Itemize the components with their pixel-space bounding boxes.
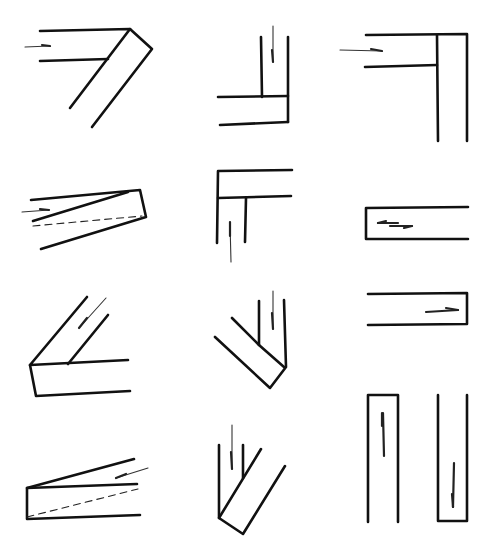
- arrow-right-icon: [340, 49, 382, 51]
- figure-3-horizontal-into-vertical: [340, 34, 467, 141]
- figure-7-diagonal-into-horizontal: [30, 297, 130, 396]
- figure-5-inverted-l-corner: [217, 170, 292, 262]
- arrow-down-icon: [230, 222, 231, 262]
- figure-10-tapered-wedge-closed-left: [27, 459, 148, 519]
- figure-8-vertical-into-diagonal: [215, 291, 286, 388]
- figure-6-closed-left-channel: [366, 207, 468, 239]
- figure-2-vertical-into-horizontal: [218, 26, 288, 125]
- figure-11-vertical-into-diagonal: [219, 425, 285, 534]
- figure-12-vertical-channel-pair: [368, 395, 467, 522]
- figure-9-closed-right-channel: [368, 293, 467, 325]
- arrow-down-icon: [452, 463, 454, 507]
- arrow-down-icon: [272, 291, 273, 329]
- figure-1-angled-joint: [25, 29, 152, 127]
- arrow-down-icon: [272, 26, 273, 62]
- arrow-right-icon: [22, 209, 49, 212]
- arrow-diagonal-icon: [116, 468, 148, 478]
- arrow-right-icon: [426, 308, 458, 312]
- arrow-down-icon: [231, 425, 232, 469]
- diagram-canvas: [0, 0, 496, 560]
- arrow-up-icon: [382, 413, 384, 456]
- double-half-arrow-icon: [378, 221, 412, 228]
- arrow-right-icon: [25, 45, 50, 47]
- figure-4-tapered-wedge: [22, 190, 146, 249]
